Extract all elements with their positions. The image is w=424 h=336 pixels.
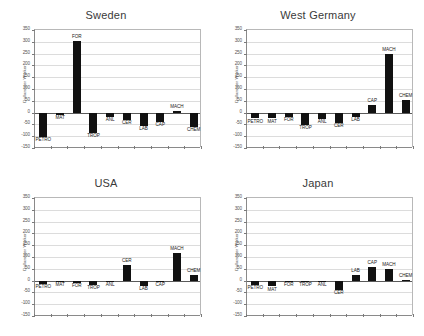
y-tick-label: 100: [220, 254, 242, 259]
x-tick-mark: [263, 314, 264, 317]
y-tick-mark: [32, 281, 35, 282]
gridline: [247, 233, 412, 234]
y-tick-mark: [244, 42, 247, 43]
bar-label-cap: CAP: [156, 123, 165, 128]
bar-cap: [368, 105, 376, 113]
x-tick-mark: [51, 146, 52, 149]
y-tick-label: 50: [8, 98, 30, 103]
y-tick-mark: [244, 304, 247, 305]
bar-label-anl: ANL: [106, 118, 115, 123]
y-tick-mark: [32, 257, 35, 258]
y-tick-mark: [244, 245, 247, 246]
bar-label-for: FOR: [72, 35, 82, 40]
y-tick-label: -150: [8, 313, 30, 318]
y-tick-label: 0: [8, 277, 30, 282]
plot-area: PETROMATFORTROPANLCERLABCAPMACHCHEM: [246, 29, 413, 147]
bar-label-mat: MAT: [267, 120, 276, 125]
x-tick-mark: [184, 314, 185, 317]
gridline: [35, 304, 200, 305]
y-tick-label: 150: [220, 74, 242, 79]
y-tick-label: -100: [220, 133, 242, 138]
y-tick-mark: [244, 222, 247, 223]
bar-label-anl: ANL: [318, 283, 327, 288]
bar-label-for: FOR: [284, 283, 294, 288]
bar-label-chem: CHEM: [399, 94, 412, 99]
bar-label-trop: TROP: [299, 126, 312, 131]
bar-label-chem: CHEM: [399, 274, 412, 279]
y-tick-label: 250: [220, 218, 242, 223]
bar-label-chem: CHEM: [187, 269, 200, 274]
bar-label-cer: CER: [122, 259, 132, 264]
x-tick-mark: [201, 314, 202, 317]
bar-trop: [301, 113, 309, 125]
bar-label-petro: PETRO: [36, 285, 52, 290]
y-tick-label: 100: [8, 86, 30, 91]
x-tick-mark: [246, 314, 247, 317]
plot-area: PETROMATFORTROPANLCERLABCAPMACHCHEM: [34, 29, 201, 147]
chart-panel-west-germany: West GermanyDollars per Worker3503002502…: [212, 0, 424, 168]
gridline: [247, 210, 412, 211]
bar-mach: [385, 54, 393, 113]
bar-label-cap: CAP: [156, 283, 165, 288]
bar-label-petro: PETRO: [36, 138, 52, 143]
chart-title: Japan: [212, 177, 424, 189]
y-tick-label: -100: [8, 301, 30, 306]
y-tick-label: 100: [220, 86, 242, 91]
bar-cer: [123, 113, 131, 120]
y-tick-mark: [244, 89, 247, 90]
chart-title: West Germany: [212, 9, 424, 21]
y-tick-mark: [32, 124, 35, 125]
y-tick-mark: [244, 136, 247, 137]
gridline: [247, 124, 412, 125]
gridline: [35, 77, 200, 78]
x-tick-mark: [246, 146, 247, 149]
y-tick-mark: [32, 30, 35, 31]
y-tick-mark: [32, 210, 35, 211]
bar-label-petro: PETRO: [248, 120, 264, 125]
bar-label-mach: MACH: [382, 48, 395, 53]
x-tick-mark: [168, 314, 169, 317]
chart-panel-sweden: SwedenDollars per Worker3503002502001501…: [0, 0, 212, 168]
gridline: [35, 210, 200, 211]
y-tick-mark: [244, 257, 247, 258]
y-tick-mark: [32, 292, 35, 293]
bar-chem: [402, 280, 410, 281]
gridline: [35, 292, 200, 293]
gridline: [35, 101, 200, 102]
bar-label-mat: MAT: [267, 288, 276, 293]
y-tick-mark: [32, 222, 35, 223]
y-tick-label: 250: [8, 218, 30, 223]
bar-label-anl: ANL: [106, 283, 115, 288]
gridline: [35, 233, 200, 234]
bar-chem: [190, 113, 198, 128]
plot-area: PETROMATFORTROPANLCERLABCAPMACHCHEM: [34, 197, 201, 315]
bar-label-mach: MACH: [382, 263, 395, 268]
y-tick-mark: [244, 77, 247, 78]
y-tick-label: 300: [220, 207, 242, 212]
x-tick-mark: [201, 146, 202, 149]
bar-label-for: FOR: [284, 118, 294, 123]
x-tick-mark: [34, 146, 35, 149]
x-tick-mark: [413, 146, 414, 149]
gridline: [35, 42, 200, 43]
x-tick-mark: [346, 146, 347, 149]
bar-cap: [368, 267, 376, 281]
y-tick-label: -50: [220, 121, 242, 126]
bar-chem: [190, 275, 198, 280]
y-tick-mark: [32, 89, 35, 90]
y-tick-label: 50: [220, 266, 242, 271]
y-tick-mark: [244, 101, 247, 102]
y-tick-mark: [244, 54, 247, 55]
y-tick-label: -100: [8, 133, 30, 138]
y-tick-label: 200: [8, 62, 30, 67]
bar-mach: [385, 269, 393, 280]
plot-area: PETROMATFORTROPANLCERLABCAPMACHCHEM: [246, 197, 413, 315]
gridline: [247, 304, 412, 305]
bar-cer: [335, 281, 343, 290]
x-tick-mark: [279, 146, 280, 149]
x-tick-mark: [118, 146, 119, 149]
y-tick-label: 250: [8, 50, 30, 55]
bar-anl: [318, 113, 326, 120]
y-tick-label: 200: [220, 62, 242, 67]
y-tick-label: 0: [220, 109, 242, 114]
